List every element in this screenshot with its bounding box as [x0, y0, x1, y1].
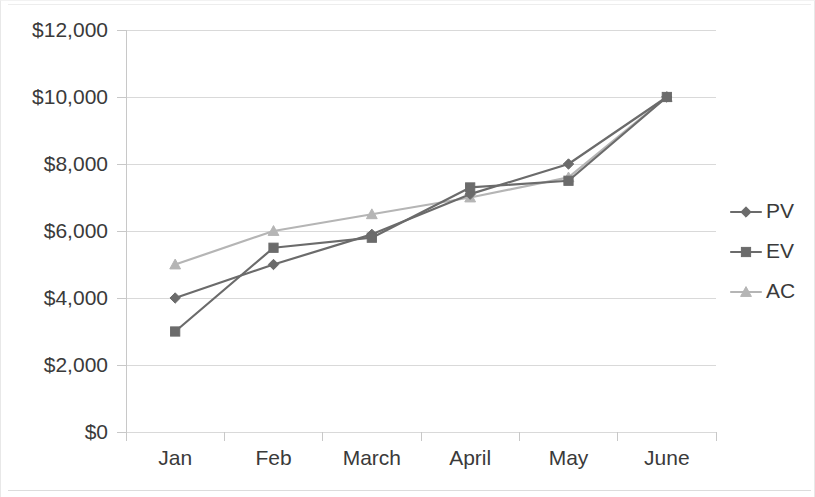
data-point-marker: [741, 207, 751, 217]
gridlines: [126, 30, 716, 432]
y-axis-label: $2,000: [44, 353, 108, 376]
data-point-marker: [741, 247, 750, 256]
y-axis-label: $0: [85, 420, 108, 443]
x-axis-label: Jan: [158, 446, 192, 469]
y-axis-label: $8,000: [44, 152, 108, 175]
chart-legend: PVEVAC: [731, 199, 795, 302]
data-series: [170, 92, 672, 337]
axis-tickmarks: [117, 30, 716, 441]
legend-item-ev[interactable]: EV: [731, 239, 794, 262]
line-chart-figure: $0$2,000$4,000$6,000$8,000$10,000$12,000…: [0, 0, 815, 497]
y-axis-label: $6,000: [44, 219, 108, 242]
y-axis-label: $4,000: [44, 286, 108, 309]
x-axis-label: Feb: [255, 446, 291, 469]
y-axis-tick-labels: $0$2,000$4,000$6,000$8,000$10,000$12,000: [32, 18, 108, 443]
data-point-marker: [269, 243, 278, 252]
legend-label-ev: EV: [766, 239, 794, 262]
y-axis-label: $12,000: [32, 18, 108, 41]
chart-canvas: $0$2,000$4,000$6,000$8,000$10,000$12,000…: [0, 0, 815, 497]
data-point-marker: [662, 92, 671, 101]
x-axis-label: March: [343, 446, 401, 469]
x-axis-label: April: [449, 446, 491, 469]
series-line-ac: [175, 97, 667, 265]
data-point-marker: [170, 293, 180, 303]
legend-label-pv: PV: [766, 199, 794, 222]
x-axis-tick-labels: JanFebMarchAprilMayJune: [158, 446, 689, 469]
data-point-marker: [367, 233, 376, 242]
data-point-marker: [466, 183, 475, 192]
data-point-marker: [564, 176, 573, 185]
series-ac: [170, 92, 672, 269]
legend-label-ac: AC: [766, 279, 795, 302]
y-axis-label: $10,000: [32, 85, 108, 108]
data-point-marker: [171, 327, 180, 336]
x-axis-label: June: [644, 446, 690, 469]
legend-item-ac[interactable]: AC: [731, 279, 795, 302]
x-axis-label: May: [549, 446, 589, 469]
legend-item-pv[interactable]: PV: [731, 199, 794, 222]
data-point-marker: [268, 259, 278, 269]
